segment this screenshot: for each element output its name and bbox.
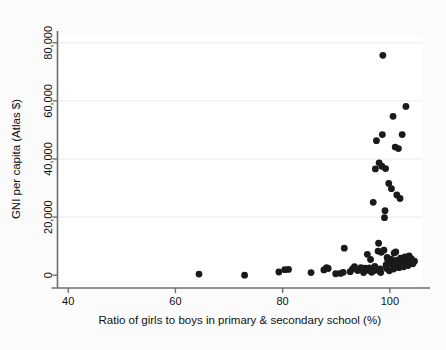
data-point	[275, 269, 282, 276]
data-point	[372, 165, 379, 172]
data-point	[377, 269, 384, 276]
data-point	[196, 271, 203, 278]
data-point	[379, 131, 386, 138]
y-tick-label-60000: 60,000	[42, 84, 54, 118]
data-point	[403, 103, 410, 110]
y-tick-label-40000: 40,000	[42, 142, 54, 176]
data-point	[325, 265, 332, 272]
data-point	[341, 245, 348, 252]
data-point	[392, 249, 399, 256]
y-axis-title: GNI per capita (Atlas $)	[10, 99, 22, 219]
data-point	[367, 256, 374, 263]
data-point	[397, 195, 404, 202]
data-point	[390, 113, 397, 120]
x-tick-label-80: 80	[277, 295, 289, 307]
data-point	[381, 247, 388, 254]
data-point	[285, 266, 292, 273]
x-tick-label-100: 100	[381, 295, 399, 307]
data-point	[381, 214, 388, 221]
data-point	[382, 207, 389, 214]
data-point	[241, 272, 248, 279]
y-tick-label-80000: 80,000	[42, 26, 54, 60]
data-point	[375, 240, 382, 247]
y-tick-label-0: 0	[42, 272, 54, 278]
x-axis-title: Ratio of girls to boys in primary & seco…	[99, 314, 382, 326]
data-point	[340, 269, 347, 276]
data-point	[395, 145, 402, 152]
scatter-plot-figure: 020,00040,00060,00080,000406080100GNI pe…	[0, 0, 446, 350]
data-point	[399, 131, 406, 138]
data-point	[388, 185, 395, 192]
x-tick-label-40: 40	[62, 295, 74, 307]
x-tick-label-60: 60	[169, 295, 181, 307]
y-tick-label-20000: 20,000	[42, 200, 54, 234]
data-point	[379, 52, 386, 59]
data-point	[382, 165, 389, 172]
data-point	[370, 199, 377, 206]
data-point	[411, 258, 418, 265]
data-point	[308, 269, 315, 276]
data-point	[373, 137, 380, 144]
plot-canvas: 020,00040,00060,00080,000406080100GNI pe…	[0, 0, 446, 350]
